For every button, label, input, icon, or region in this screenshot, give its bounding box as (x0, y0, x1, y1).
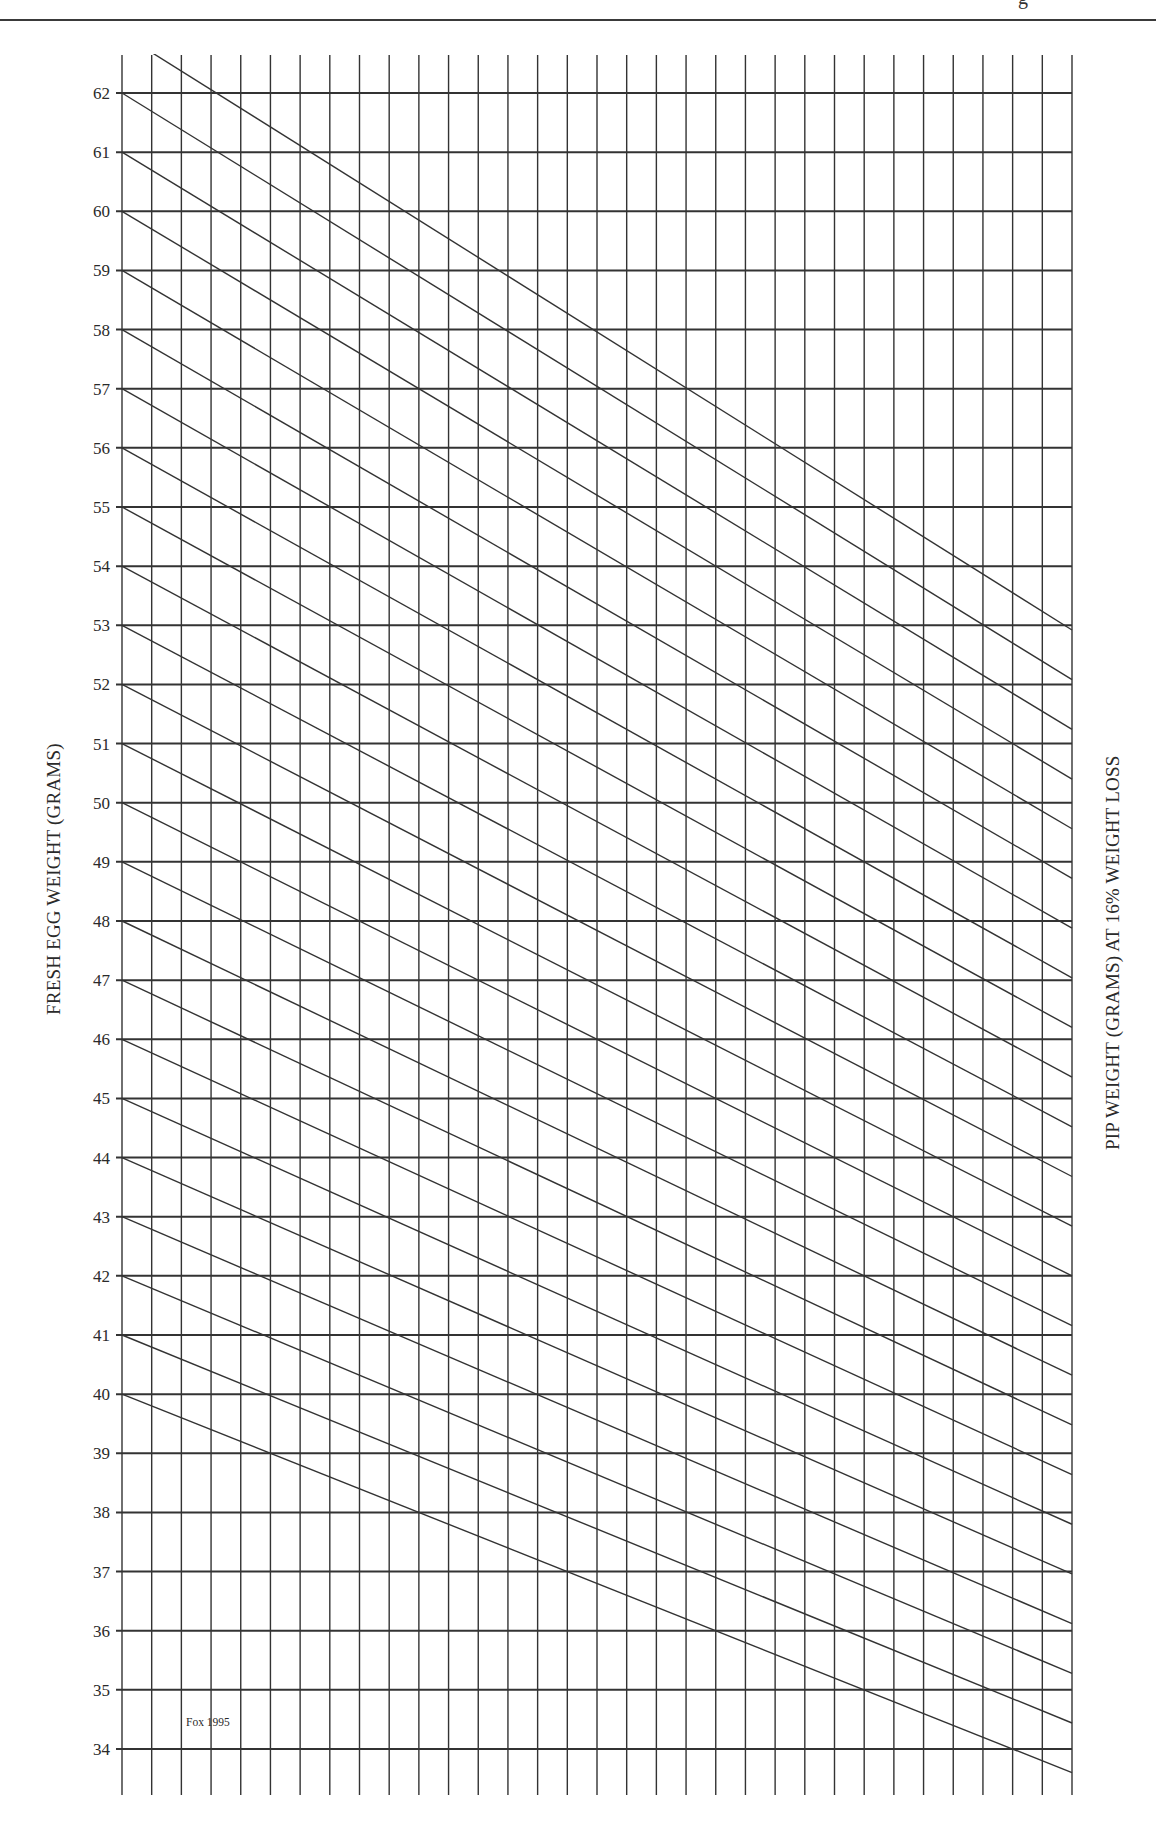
y-tick-label: 47 (93, 971, 111, 990)
y-tick-label: 56 (93, 439, 110, 458)
y-tick-label: 53 (93, 616, 110, 635)
y-tick-label: 41 (93, 1326, 110, 1345)
y-tick-label: 36 (93, 1622, 110, 1641)
y-tick-label: 45 (93, 1089, 110, 1108)
y-tick-label: 55 (93, 498, 110, 517)
y-tick-label: 39 (93, 1444, 110, 1463)
y-tick-label: 52 (93, 675, 110, 694)
y-tick-label: 48 (93, 912, 110, 931)
vertical-gridlines (122, 55, 1072, 1795)
y-tick-label: 51 (93, 735, 110, 754)
credit-label: Fox 1995 (186, 1716, 230, 1728)
y-tick-label: 40 (93, 1385, 110, 1404)
y-tick-label: 38 (93, 1503, 110, 1522)
y-axis-tick-labels: 6261605958575655545352515049484746454443… (93, 84, 111, 1759)
y-tick-label: 50 (93, 794, 110, 813)
y-tick-label: 60 (93, 202, 110, 221)
nomogram-chart: 6261605958575655545352515049484746454443… (0, 0, 1156, 1836)
y-tick-label: 34 (93, 1740, 111, 1759)
y-tick-label: 46 (93, 1030, 110, 1049)
y-tick-label: 54 (93, 557, 111, 576)
y-tick-label: 58 (93, 321, 110, 340)
y-tick-label: 44 (93, 1149, 111, 1168)
y-tick-label: 61 (93, 143, 110, 162)
y-tick-label: 59 (93, 261, 110, 280)
y-tick-label: 57 (93, 380, 111, 399)
y-tick-label: 43 (93, 1208, 110, 1227)
y-tick-label: 37 (93, 1563, 111, 1582)
y-tick-label: 35 (93, 1681, 110, 1700)
horizontal-gridlines (116, 93, 1072, 1749)
y-tick-label: 42 (93, 1267, 110, 1286)
right-axis-title: PIP WEIGHT (GRAMS) AT 16% WEIGHT LOSS (1102, 756, 1124, 1150)
y-tick-label: 49 (93, 853, 110, 872)
y-axis-title: FRESH EGG WEIGHT (GRAMS) (43, 743, 65, 1015)
y-tick-label: 62 (93, 84, 110, 103)
